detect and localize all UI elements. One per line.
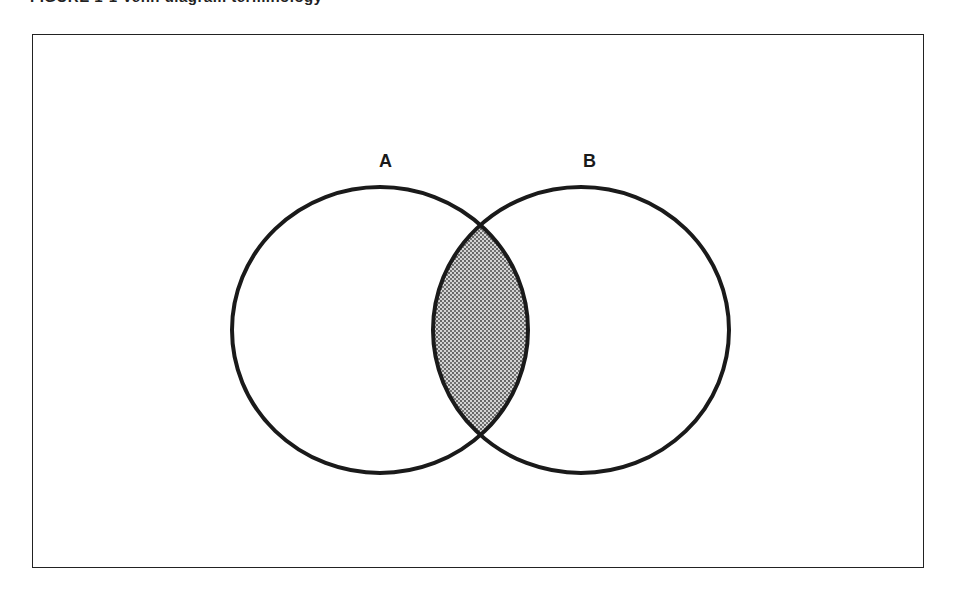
set-b-label: B bbox=[583, 152, 596, 170]
set-a-label: A bbox=[379, 152, 392, 170]
venn-diagram bbox=[0, 0, 957, 591]
